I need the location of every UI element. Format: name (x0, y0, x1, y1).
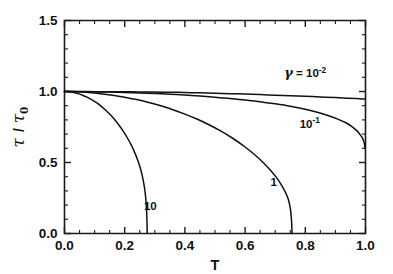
line-chart: 0.00.20.40.60.81.0 0.00.51.01.5 T τ / τ0… (0, 0, 393, 274)
y-axis-title: τ / τ0 (8, 107, 30, 148)
x-tick-labels: 0.00.20.40.60.81.0 (55, 238, 375, 253)
x-tick-label: 0.0 (55, 238, 74, 253)
x-tick-label: 0.6 (236, 238, 255, 253)
y-tick-label: 1.0 (39, 84, 58, 99)
curve-2 (65, 92, 293, 234)
y-tick-labels: 0.00.51.01.5 (39, 13, 58, 241)
x-axis-title: T (211, 257, 220, 273)
y-tick-label: 0.5 (39, 155, 58, 170)
figure-panel: 0.00.20.40.60.81.0 0.00.51.01.5 T τ / τ0… (0, 0, 393, 274)
curve-1 (65, 92, 366, 149)
x-tick-label: 0.4 (176, 238, 195, 253)
x-tick-label: 0.8 (296, 238, 315, 253)
x-tick-label: 1.0 (356, 238, 375, 253)
y-tick-label: 1.5 (39, 13, 58, 28)
curve-label-2: 1 (270, 176, 277, 188)
curve-annotations: γ = 10-210-1110 (144, 65, 327, 212)
curve-label-0: γ = 10-2 (284, 65, 326, 81)
curve-3 (65, 92, 148, 234)
curve-label-3: 10 (144, 200, 157, 212)
x-tick-label: 0.2 (115, 238, 134, 253)
y-tick-label: 0.0 (39, 226, 58, 241)
curve-label-1: 10-1 (300, 115, 321, 129)
data-curves (65, 91, 366, 233)
svg-text:τ / τ0: τ / τ0 (8, 107, 30, 148)
